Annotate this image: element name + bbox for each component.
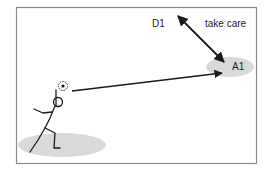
passer-zone — [18, 133, 106, 157]
label-note: take care — [205, 18, 247, 29]
diagram-canvas: D1 take care A1 — [0, 0, 268, 173]
label-attacker: A1 — [232, 61, 245, 72]
label-defender: D1 — [152, 18, 165, 29]
ball-icon — [59, 82, 68, 91]
